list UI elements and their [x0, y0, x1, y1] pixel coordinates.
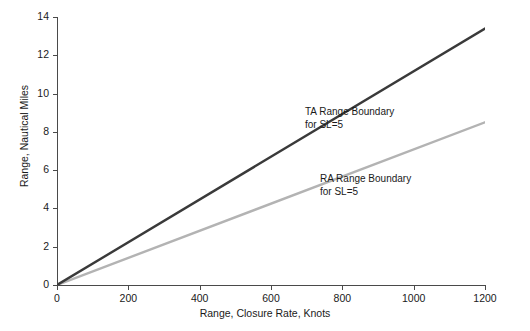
series-line-ra-range-boundary	[57, 122, 485, 285]
annotation-ta-range-boundary: TA Range Boundary for SL=5	[305, 105, 394, 131]
series-lines	[57, 17, 485, 285]
chart-figure: 02468101214 020040060080010001200 TA Ran…	[0, 0, 530, 331]
x-tick-label: 200	[108, 292, 148, 304]
annotation-ta-line2: for SL=5	[305, 118, 394, 131]
plot-area	[57, 17, 485, 285]
annotation-ra-line1: RA Range Boundary	[320, 172, 411, 185]
x-tick-mark	[200, 286, 201, 290]
x-tick-label: 400	[180, 292, 220, 304]
x-tick-mark	[414, 286, 415, 290]
x-tick-label: 800	[322, 292, 362, 304]
x-tick-label: 0	[37, 292, 77, 304]
annotation-ra-line2: for SL=5	[320, 185, 411, 198]
annotation-ta-line1: TA Range Boundary	[305, 105, 394, 118]
x-tick-label: 1200	[465, 292, 505, 304]
x-tick-mark	[271, 286, 272, 290]
y-tick-label: 0	[19, 278, 49, 290]
x-tick-label: 1000	[394, 292, 434, 304]
x-tick-label: 600	[251, 292, 291, 304]
x-tick-mark	[57, 286, 58, 290]
x-tick-mark	[342, 286, 343, 290]
series-line-ta-range-boundary	[57, 28, 485, 285]
x-tick-mark	[128, 286, 129, 290]
annotation-ra-range-boundary: RA Range Boundary for SL=5	[320, 172, 411, 198]
x-axis-title: Range, Closure Rate, Knots	[0, 307, 530, 319]
y-tick-label: 14	[19, 10, 49, 22]
x-tick-mark	[485, 286, 486, 290]
y-tick-label: 2	[19, 240, 49, 252]
y-axis-title: Range, Nautical Miles	[18, 46, 30, 226]
